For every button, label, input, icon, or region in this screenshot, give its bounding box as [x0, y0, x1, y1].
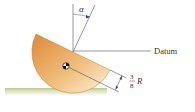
tilted-axis-line	[73, 5, 95, 52]
angle-arrowhead	[86, 15, 90, 19]
dimension-numerator: 3	[130, 73, 134, 81]
dimension-variable: R	[136, 76, 143, 86]
hemisphere-body	[32, 34, 110, 93]
datum-label: Datum	[154, 46, 178, 56]
dimension-denominator: 8	[130, 82, 134, 90]
face-extension-line	[110, 70, 126, 78]
dimension-arrow-bottom	[116, 86, 119, 90]
hemisphere-diagram: α Datum 3 8 R	[0, 0, 195, 112]
dimension-arrow-top	[119, 76, 122, 80]
angle-label: α	[79, 4, 84, 14]
center-of-gravity-icon	[63, 63, 69, 69]
